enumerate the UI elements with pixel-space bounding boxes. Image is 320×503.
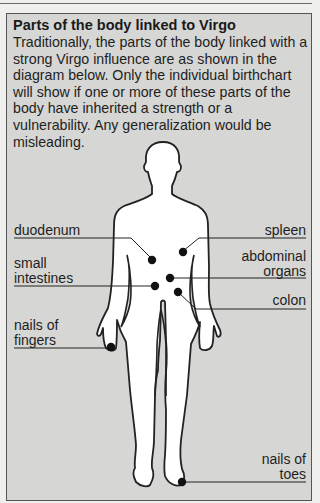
label-colon: colon bbox=[273, 293, 306, 308]
label-abdominal-organs-line1: abdominal bbox=[241, 249, 306, 264]
label-abdominal-organs: abdominal organs bbox=[241, 249, 306, 278]
dot-colon bbox=[174, 288, 182, 296]
label-nails-of-fingers-line1: nails of bbox=[14, 318, 58, 333]
label-duodenum: duodenum bbox=[14, 223, 80, 238]
label-nails-of-fingers: nails of fingers bbox=[14, 318, 58, 347]
dot-duodenum bbox=[148, 256, 156, 264]
label-small-intestines-line2: intestines bbox=[14, 271, 73, 286]
dot-nails-toes bbox=[178, 478, 186, 486]
dot-abdominal-organs bbox=[166, 274, 174, 282]
dot-spleen bbox=[179, 248, 187, 256]
label-small-intestines-line1: small bbox=[14, 256, 73, 271]
label-nails-of-fingers-line2: fingers bbox=[14, 333, 58, 348]
dot-nails-fingers bbox=[107, 343, 115, 351]
label-small-intestines: small intestines bbox=[14, 256, 73, 285]
label-abdominal-organs-line2: organs bbox=[241, 264, 306, 279]
label-nails-of-toes-line2: toes bbox=[262, 467, 306, 482]
label-nails-of-toes: nails of toes bbox=[262, 452, 306, 481]
body-outline bbox=[97, 142, 221, 486]
dot-small-intestines bbox=[151, 282, 159, 290]
label-nails-of-toes-line1: nails of bbox=[262, 452, 306, 467]
label-spleen: spleen bbox=[265, 223, 306, 238]
